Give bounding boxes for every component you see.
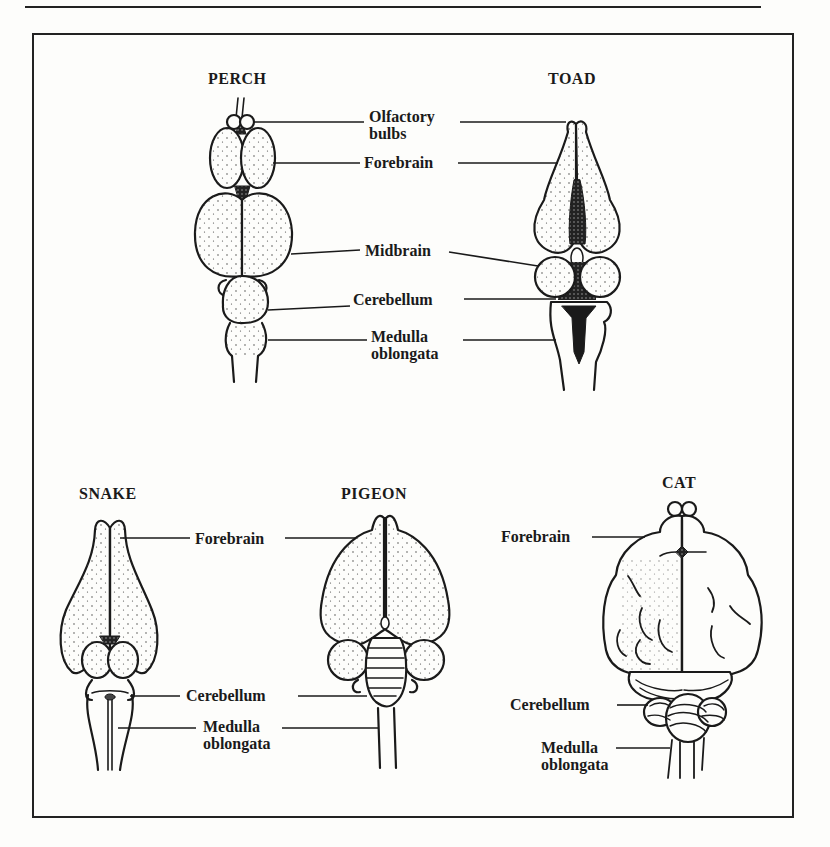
toad-brain	[534, 122, 620, 390]
label-olfactory-bulbs: Olfactory bulbs	[369, 108, 435, 142]
snake-title: SNAKE	[79, 485, 137, 503]
label-medulla-sp-line2: oblongata	[203, 735, 271, 752]
label-forebrain-snake-pigeon: Forebrain	[195, 530, 264, 547]
label-medulla-top-line2: oblongata	[371, 345, 439, 362]
label-cerebellum-snake-pigeon: Cerebellum	[186, 687, 266, 704]
pigeon-brain	[321, 516, 450, 768]
snake-brain	[61, 521, 158, 770]
perch-title: PERCH	[208, 70, 267, 88]
label-cerebellum-cat: Cerebellum	[510, 696, 590, 713]
label-olfactory-line2: bulbs	[369, 125, 406, 142]
toad-title: TOAD	[548, 70, 596, 88]
cat-brain	[603, 502, 761, 778]
label-olfactory-line1: Olfactory	[369, 108, 435, 125]
label-medulla-cat-line2: oblongata	[541, 756, 609, 773]
label-medulla-sp-line1: Medulla	[203, 718, 260, 735]
label-cerebellum-top: Cerebellum	[353, 291, 433, 308]
pigeon-title: PIGEON	[341, 485, 407, 503]
cat-title: CAT	[662, 474, 696, 492]
label-forebrain-cat: Forebrain	[501, 528, 570, 545]
label-medulla-cat: Medulla oblongata	[541, 739, 609, 773]
label-midbrain: Midbrain	[365, 242, 431, 259]
label-medulla-snake-pigeon: Medulla oblongata	[203, 718, 271, 752]
label-medulla-top-line1: Medulla	[371, 328, 428, 345]
label-medulla-cat-line1: Medulla	[541, 739, 598, 756]
label-medulla-top: Medulla oblongata	[371, 328, 439, 362]
label-forebrain-top: Forebrain	[364, 154, 433, 171]
